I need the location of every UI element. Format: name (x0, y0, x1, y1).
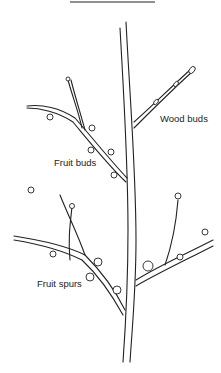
fruit-spurs-label: Fruit spurs (37, 278, 82, 289)
branch-diagram: Wood buds Fruit buds Fruit spurs (0, 0, 221, 373)
branch-drawing (0, 0, 221, 373)
wood-buds-label: Wood buds (160, 113, 208, 124)
fruit-buds-label: Fruit buds (54, 157, 96, 168)
fruit-spur-branch-left (14, 187, 125, 315)
main-trunk (120, 22, 136, 362)
fruit-spur-branch-right (136, 193, 213, 286)
